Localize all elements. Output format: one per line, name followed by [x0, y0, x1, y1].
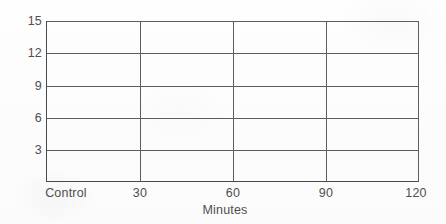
x-tick-label-120: 120: [390, 186, 442, 200]
y-tick-label-3: 3: [8, 143, 42, 157]
y-tick-label-9: 9: [8, 79, 42, 93]
y-tick-label-6: 6: [8, 111, 42, 125]
gridline-y-3: [46, 150, 418, 151]
gridline-x-60: [233, 21, 234, 182]
gridline-x-120: [418, 21, 419, 182]
gridline-y-9: [46, 86, 418, 87]
x-axis-line: [46, 181, 418, 182]
y-tick-label-15: 15: [8, 14, 42, 28]
x-tick-label-control: Control: [26, 186, 106, 200]
x-tick-label-30: 30: [110, 186, 170, 200]
x-tick-label-60: 60: [203, 186, 263, 200]
gridline-y-15: [46, 21, 418, 22]
gridline-y-12: [46, 53, 418, 54]
x-tick-label-90: 90: [296, 186, 356, 200]
gridline-x-30: [140, 21, 141, 182]
gridline-x-90: [326, 21, 327, 182]
y-axis-line: [46, 21, 47, 182]
chart-figure: 15 12 9 6 3 Control 30 60 90 120 Minutes: [0, 0, 446, 224]
gridline-y-6: [46, 118, 418, 119]
y-tick-label-12: 12: [8, 46, 42, 60]
x-axis-title: Minutes: [175, 203, 275, 217]
